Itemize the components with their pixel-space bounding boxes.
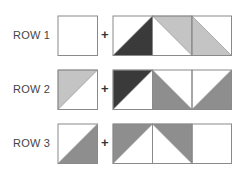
row-2-strip-block-2	[153, 70, 193, 110]
row-1-strip-block-1	[113, 16, 153, 56]
light-triangle	[153, 16, 193, 56]
mid-triangle	[153, 124, 193, 164]
row-1-single-block	[58, 16, 98, 56]
row-3-strip-block-3	[192, 124, 232, 164]
row-2-strip-block-3	[192, 70, 232, 110]
mid-triangle	[192, 70, 232, 110]
row-1-strip-block-2	[153, 16, 193, 56]
row-2-single-block	[58, 70, 98, 110]
block-outline	[58, 16, 98, 56]
quilt-blocks	[0, 0, 242, 170]
dark-triangle	[113, 70, 153, 110]
mid-triangle	[153, 70, 193, 110]
light-triangle	[192, 16, 232, 56]
row-3-strip-block-2	[153, 124, 193, 164]
dark-triangle	[113, 16, 153, 56]
mid-triangle	[113, 124, 153, 164]
light-triangle	[58, 70, 98, 110]
row-1-strip-block-3	[192, 16, 232, 56]
row-2-strip-block-1	[113, 70, 153, 110]
mid-triangle	[58, 124, 98, 164]
row-3-strip-block-1	[113, 124, 153, 164]
block-outline	[192, 124, 232, 164]
row-3-single-block	[58, 124, 98, 164]
